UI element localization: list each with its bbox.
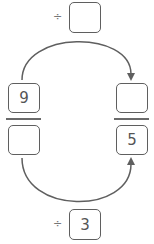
top-arrow xyxy=(22,42,131,80)
top-arrow-head xyxy=(127,73,135,81)
right-fraction-bar xyxy=(114,118,149,120)
arrows-layer xyxy=(0,0,154,244)
right-denominator-box[interactable]: 5 xyxy=(116,125,148,155)
top-divide-symbol: ÷ xyxy=(53,10,62,23)
bottom-divide-symbol: ÷ xyxy=(53,217,62,230)
right-numerator-box[interactable] xyxy=(116,83,148,113)
bottom-arrow xyxy=(22,158,131,202)
left-denominator-box[interactable] xyxy=(8,125,40,155)
left-numerator-box[interactable]: 9 xyxy=(8,83,40,113)
top-divisor-box[interactable] xyxy=(69,2,101,33)
bottom-arrow-head xyxy=(127,157,135,165)
bottom-divisor-box[interactable]: 3 xyxy=(69,209,101,240)
left-fraction-bar xyxy=(6,118,41,120)
